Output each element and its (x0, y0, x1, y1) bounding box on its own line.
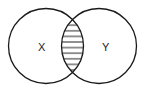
set-x-label: X (38, 41, 46, 53)
set-y-label: Y (102, 41, 110, 53)
venn-diagram: X Y (0, 0, 145, 91)
